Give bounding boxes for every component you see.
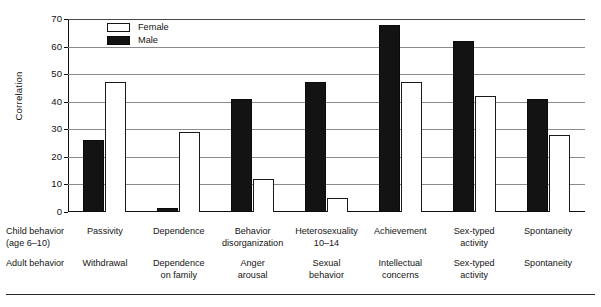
- child-behavior-label-line1: Passivity: [87, 226, 123, 236]
- bar-female: [401, 82, 422, 212]
- bar-female: [327, 198, 348, 212]
- y-tick-label: 30: [30, 124, 62, 134]
- bar-male: [453, 41, 474, 212]
- adult-behavior-label-line1: Spontaneity: [524, 258, 572, 268]
- category-label-rows: Child behavior (age 6–10) PassivityDepen…: [0, 214, 601, 284]
- row-header-child-line2: (age 6–10): [6, 238, 50, 248]
- footer-rule: [6, 294, 595, 295]
- plot-region: 010203040506070 Female Male: [68, 19, 585, 212]
- child-behavior-label-line1: Sex-typed: [454, 226, 495, 236]
- child-behavior-label-line1: Spontaneity: [524, 226, 572, 236]
- bar-male: [527, 99, 548, 212]
- bar-female: [549, 135, 570, 212]
- bar-male: [157, 208, 178, 212]
- y-tick-label: 60: [30, 42, 62, 52]
- legend-item-female: Female: [107, 22, 169, 33]
- y-tick-label: 10: [30, 180, 62, 190]
- y-tick-label: 70: [30, 14, 62, 24]
- bar-female: [179, 132, 200, 212]
- y-tick-label: 40: [30, 97, 62, 107]
- legend-label-female: Female: [138, 22, 169, 33]
- legend: Female Male: [107, 22, 169, 48]
- child-behavior-label: Spontaneity: [493, 226, 601, 238]
- adult-behavior-label-line1: Sex-typed: [454, 258, 495, 268]
- y-tick-mark: [64, 212, 68, 213]
- adult-behavior-label: Spontaneity: [493, 258, 601, 270]
- adult-behavior-label-line1: Intellectual: [379, 258, 422, 268]
- y-axis-title: Correlation: [13, 71, 24, 120]
- adult-behavior-label-line2: arousal: [238, 270, 268, 280]
- open-square-swatch-icon: [107, 23, 130, 32]
- bar-male: [305, 82, 326, 212]
- bar-female: [253, 179, 274, 212]
- y-tick-label: 20: [30, 152, 62, 162]
- child-behavior-label-line2: 10–14: [314, 238, 339, 248]
- child-behavior-label-line1: Behavior: [235, 226, 271, 236]
- bar-female: [475, 96, 496, 212]
- adult-behavior-label-line2: concerns: [382, 270, 419, 280]
- child-behavior-label-line2: activity: [460, 238, 488, 248]
- y-tick-label: 50: [30, 69, 62, 79]
- adult-behavior-label-line1: Withdrawal: [82, 258, 127, 268]
- adult-behavior-label-line2: on family: [161, 270, 197, 280]
- bar-male: [231, 99, 252, 212]
- legend-label-male: Male: [138, 35, 158, 46]
- filled-square-swatch-icon: [107, 36, 130, 45]
- adult-behavior-label-line1: Sexual: [313, 258, 341, 268]
- adult-behavior-label-line1: Anger: [241, 258, 265, 268]
- legend-item-male: Male: [107, 35, 169, 46]
- bar-male: [379, 25, 400, 212]
- bar-female: [105, 82, 126, 212]
- chart-figure: 010203040506070 Female Male Correlation …: [0, 0, 601, 307]
- bar-male: [83, 140, 104, 212]
- adult-behavior-label-line2: behavior: [309, 270, 344, 280]
- adult-behavior-label-line2: activity: [460, 270, 488, 280]
